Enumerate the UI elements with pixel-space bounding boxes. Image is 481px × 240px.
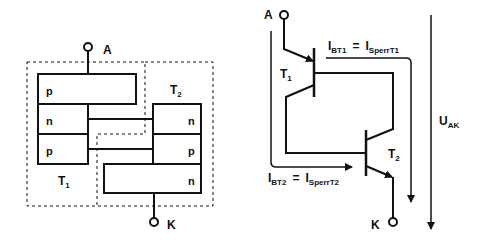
cathode-terminal-icon <box>150 218 158 226</box>
t1-collector-to-t2-base <box>286 85 366 153</box>
two-transistor-labels: A K T1 T2 IBT1=ISperrT1 IBT2=ISperrT2 UA… <box>264 8 459 232</box>
layer-label: p <box>46 85 53 97</box>
t2-label: T2 <box>170 83 182 99</box>
cathode-terminal-icon <box>389 218 397 226</box>
two-transistor-model <box>271 11 431 229</box>
anode-label: A <box>264 8 273 22</box>
voltage-label-uak: UAK <box>439 114 459 130</box>
layer-label: n <box>188 115 195 127</box>
anode-terminal-icon <box>280 11 288 19</box>
layer-label: p <box>188 145 195 157</box>
cathode-label: K <box>167 218 176 232</box>
t1-label: T1 <box>280 67 292 83</box>
anode-label: A <box>103 43 112 57</box>
current-label-ibt2: IBT2=ISperrT2 <box>268 171 340 187</box>
t1-base-to-t2-collector <box>314 73 393 140</box>
thyristor-diagram: A K p n p n p n T1 T2 A K <box>0 0 481 240</box>
layer-label: n <box>188 175 195 187</box>
t2-label: T2 <box>388 147 400 163</box>
layer-label: p <box>46 145 53 157</box>
t1-emitter <box>284 19 313 61</box>
current-label-ibt1: IBT1=ISperrT1 <box>328 39 400 55</box>
t2-emitter <box>366 166 392 177</box>
four-layer-structure <box>27 43 213 226</box>
anode-terminal-icon <box>84 43 92 51</box>
layer-n-bottom <box>104 164 201 193</box>
four-layer-labels: A K p n p n p n T1 T2 <box>46 43 195 232</box>
t1-label: T1 <box>58 174 70 190</box>
layer-label: n <box>46 115 53 127</box>
cathode-label: K <box>371 218 380 232</box>
